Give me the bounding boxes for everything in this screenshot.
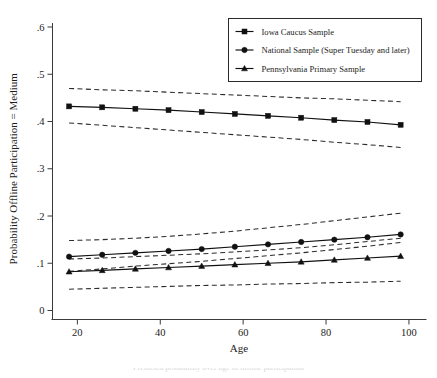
data-point-square-marker [166,108,171,113]
legend-item-label: Pennsylvania Primary Sample [262,64,366,74]
x-tick-label: 40 [155,327,166,338]
data-point-square-marker [266,113,271,118]
legend-item-label: Iowa Caucus Sample [262,27,335,37]
data-point-circle-marker [66,254,71,259]
confidence-band [69,281,401,289]
data-point-circle-marker [398,232,403,237]
data-point-square-marker [365,119,370,124]
legend-circle-marker-icon [242,47,247,52]
confidence-band [69,123,401,148]
y-tick-label: .3 [37,163,45,174]
y-tick-label: .5 [37,69,45,80]
data-point-square-marker [232,111,237,116]
data-point-square-marker [100,105,105,110]
figure-caption-text: Predicted probability over age of offlin… [0,368,437,372]
data-point-circle-marker [166,248,171,253]
data-point-circle-marker [232,244,237,249]
y-tick-label: .1 [37,258,45,269]
y-axis-title: Probability Offline Participation = Medi… [7,73,19,265]
data-point-circle-marker [298,239,303,244]
x-tick-label: 100 [401,327,417,338]
data-point-circle-marker [365,235,370,240]
data-point-square-marker [332,118,337,123]
x-axis-ticks: 20406080100 [72,320,417,338]
legend-item-label: National Sample (Super Tuesday and later… [262,45,410,55]
y-tick-label: .6 [37,22,45,33]
x-tick-label: 60 [238,327,249,338]
confidence-band [69,213,401,240]
y-axis-ticks: 0.1.2.3.4.5.6 [37,22,53,317]
data-point-circle-marker [265,242,270,247]
data-point-square-marker [398,122,403,127]
legend-square-marker-icon [242,29,247,34]
chart-canvas: 20406080100 0.1.2.3.4.5.6 AgeProbability… [0,0,437,378]
data-point-square-marker [199,110,204,115]
data-point-square-marker [67,104,72,109]
x-tick-label: 20 [72,327,83,338]
data-point-square-marker [133,106,138,111]
data-point-square-marker [299,115,304,120]
series-markers [66,104,404,274]
data-point-circle-marker [133,250,138,255]
y-tick-label: .4 [37,116,46,127]
data-point-circle-marker [100,252,105,257]
data-point-circle-marker [199,246,204,251]
figure: 20406080100 0.1.2.3.4.5.6 AgeProbability… [0,0,437,378]
data-point-circle-marker [332,237,337,242]
y-tick-label: .2 [37,211,45,222]
chart-legend: Iowa Caucus SampleNational Sample (Super… [229,19,422,82]
y-tick-label: 0 [39,305,44,316]
x-tick-label: 80 [321,327,332,338]
x-axis-title: Age [230,342,248,354]
confidence-band [69,88,401,101]
figure-caption: Predicted probability over age of offlin… [0,368,437,378]
